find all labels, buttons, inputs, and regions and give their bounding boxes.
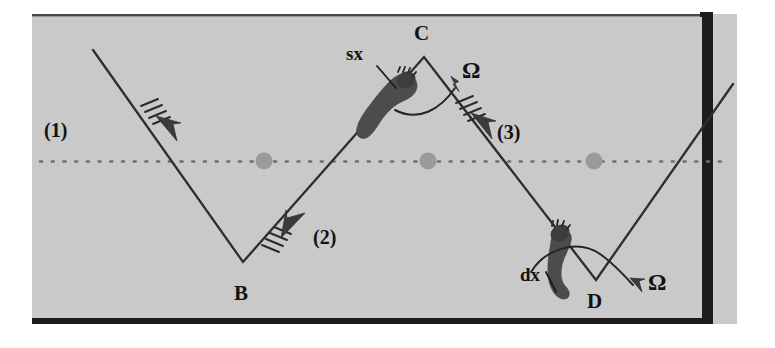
frame-border-top: [32, 14, 712, 16]
center-circle-2: [420, 153, 437, 170]
vertex-label-c: C: [414, 21, 429, 45]
vertex-label-d: D: [587, 289, 602, 313]
marker-2-label: (2): [313, 226, 336, 249]
figure-frame: [32, 12, 737, 324]
frame-border-bottom: [32, 318, 703, 324]
figure-background: [32, 14, 737, 324]
center-circle-3: [586, 153, 603, 170]
omega-c-label: Ω: [462, 58, 480, 83]
figure-container: (1) (2) (3): [0, 0, 775, 348]
frame-border-right: [702, 12, 713, 324]
marker-1-label: (1): [44, 119, 67, 142]
blob-sx-label: sx: [346, 43, 363, 64]
vertex-label-b: B: [234, 281, 248, 305]
marker-3-label: (3): [497, 121, 520, 144]
blob-dx-label: dx: [520, 264, 541, 285]
omega-d-label: Ω: [648, 270, 666, 295]
zigzag-trajectory-diagram: (1) (2) (3): [0, 0, 775, 348]
center-circle-1: [256, 153, 273, 170]
